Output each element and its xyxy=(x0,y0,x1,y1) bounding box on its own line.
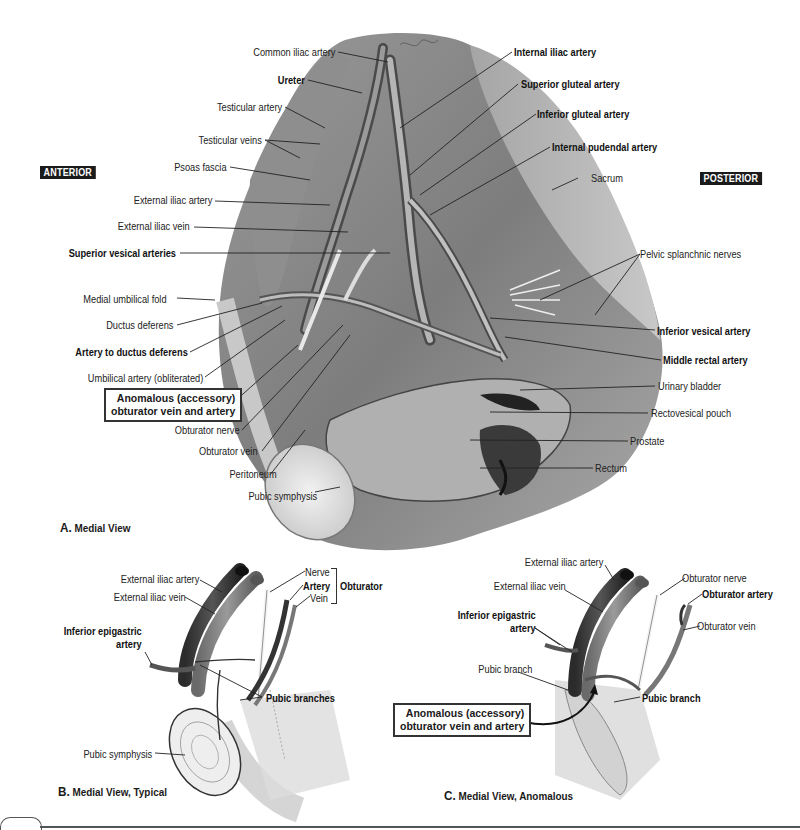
caption-panel-b-text: Medial View, Typical xyxy=(72,786,166,798)
boxed-label-c-line-2: obturator vein and artery xyxy=(400,720,524,733)
label-b-external-iliac-artery: External iliac artery xyxy=(120,573,199,585)
caption-panel-b-letter: B. xyxy=(58,784,70,799)
label-medial-umbilical-fold: Medial umbilical fold xyxy=(84,293,167,305)
label-psoas-fascia: Psoas fascia xyxy=(175,161,227,173)
label-b-inferior-epigastric-line-2: artery xyxy=(64,638,142,651)
label-c-inferior-epigastric-line-2: artery xyxy=(458,622,536,635)
label-testicular-artery: Testicular artery xyxy=(217,101,282,113)
label-ureter: Ureter xyxy=(278,74,305,86)
label-inferior-gluteal-artery: Inferior gluteal artery xyxy=(537,108,629,120)
label-c-external-iliac-artery: External iliac artery xyxy=(524,556,603,568)
label-obturator-nerve: Obturator nerve xyxy=(175,424,240,436)
label-b-pubic-branches: Pubic branches xyxy=(266,692,335,704)
label-superior-gluteal-artery: Superior gluteal artery xyxy=(521,78,620,90)
label-sacrum: Sacrum xyxy=(591,172,623,184)
label-c-obturator-vein: Obturator vein xyxy=(697,620,756,632)
label-common-iliac-artery: Common iliac artery xyxy=(253,46,335,58)
caption-panel-c: C. Medial View, Anomalous xyxy=(444,788,573,803)
panel-c-artwork xyxy=(525,570,690,800)
label-external-iliac-vein: External iliac vein xyxy=(118,220,190,232)
label-b-nerve: Nerve xyxy=(305,566,330,578)
page-footer-tab xyxy=(0,817,42,830)
boxed-label-line-2: obturator vein and artery xyxy=(111,405,235,418)
label-b-artery: Artery xyxy=(303,580,330,592)
orientation-posterior-badge: POSTERIOR xyxy=(700,172,762,185)
label-c-obturator-artery: Obturator artery xyxy=(702,588,773,600)
obturator-bracket xyxy=(331,568,337,604)
label-prostate: Prostate xyxy=(630,435,664,447)
label-internal-iliac-artery: Internal iliac artery xyxy=(514,46,596,58)
label-external-iliac-artery: External iliac artery xyxy=(133,194,212,206)
label-b-inferior-epigastric-line-1: Inferior epigastric xyxy=(64,625,142,638)
label-c-obturator-nerve: Obturator nerve xyxy=(682,572,747,584)
label-c-pubic-branch-left: Pubic branch xyxy=(478,663,532,675)
label-c-pubic-branch-right: Pubic branch xyxy=(642,692,701,704)
label-testicular-veins: Testicular veins xyxy=(199,134,262,146)
orientation-anterior-badge: ANTERIOR xyxy=(40,166,96,179)
label-peritoneum: Peritoneum xyxy=(230,468,277,480)
caption-panel-c-text: Medial View, Anomalous xyxy=(458,790,573,802)
label-pelvic-splanchnic-nerves: Pelvic splanchnic nerves xyxy=(640,248,741,260)
label-rectovesical-pouch: Rectovesical pouch xyxy=(651,407,731,419)
caption-panel-a: A. Medial View xyxy=(60,520,130,535)
caption-panel-b: B. Medial View, Typical xyxy=(58,784,167,799)
boxed-label-line-1: Anomalous (accessory) xyxy=(111,392,235,405)
label-artery-to-ductus-deferens: Artery to ductus deferens xyxy=(76,346,188,358)
label-b-vein: Vein xyxy=(310,592,328,604)
label-urinary-bladder: Urinary bladder xyxy=(658,380,721,392)
boxed-label-c-line-1: Anomalous (accessory) xyxy=(400,707,524,720)
label-middle-rectal-artery: Middle rectal artery xyxy=(663,354,748,366)
label-b-pubic-symphysis: Pubic symphysis xyxy=(83,748,152,760)
label-pubic-symphysis: Pubic symphysis xyxy=(248,490,317,502)
label-superior-vesical-arteries: Superior vesical arteries xyxy=(69,247,176,259)
label-b-external-iliac-vein: External iliac vein xyxy=(114,591,186,603)
label-anomalous-obturator-vessels-box-c: Anomalous (accessory) obturator vein and… xyxy=(393,703,531,737)
caption-panel-a-text: Medial View xyxy=(74,522,130,534)
label-internal-pudendal-artery: Internal pudendal artery xyxy=(552,141,657,153)
label-rectum: Rectum xyxy=(595,462,627,474)
label-c-external-iliac-vein: External iliac vein xyxy=(494,580,566,592)
label-umbilical-artery-obliterated: Umbilical artery (obliterated) xyxy=(87,372,203,384)
caption-panel-a-letter: A. xyxy=(60,520,72,535)
label-anomalous-obturator-vessels-box-a: Anomalous (accessory) obturator vein and… xyxy=(104,388,242,422)
label-c-inferior-epigastric-line-1: Inferior epigastric xyxy=(458,609,536,622)
label-b-obturator-group: Obturator xyxy=(340,580,383,592)
caption-panel-c-letter: C. xyxy=(444,788,456,803)
label-obturator-vein: Obturator vein xyxy=(199,445,258,457)
page-footer-rule xyxy=(40,826,800,828)
label-ductus-deferens: Ductus deferens xyxy=(106,319,173,331)
label-c-inferior-epigastric-artery: Inferior epigastric artery xyxy=(458,609,536,635)
label-inferior-vesical-artery: Inferior vesical artery xyxy=(657,325,750,337)
label-b-inferior-epigastric-artery: Inferior epigastric artery xyxy=(64,625,142,651)
